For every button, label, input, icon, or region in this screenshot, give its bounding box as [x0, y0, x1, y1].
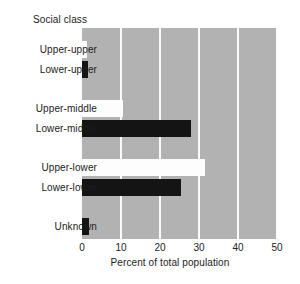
category-label-upper-lower: Upper-lower [41, 162, 97, 173]
category-label-upper-middle: Upper-middle [36, 103, 97, 114]
bar-lower-middle [82, 120, 191, 137]
category-label-lower-middle: Lower-middle [36, 123, 97, 134]
x-tick-label-20: 20 [154, 242, 165, 253]
x-tick-label-0: 0 [79, 242, 85, 253]
category-label-lower-upper: Lower-upper [40, 64, 97, 75]
x-tick-label-10: 10 [115, 242, 126, 253]
x-tick-label-50: 50 [271, 242, 282, 253]
plot-area [82, 28, 277, 239]
gridline-50 [276, 28, 277, 239]
gridline-30 [198, 28, 199, 239]
group-axis-title: Social class [33, 14, 87, 25]
x-axis-title: Percent of total population [0, 257, 300, 268]
bar-upper-lower [82, 159, 205, 176]
x-tick-label-30: 30 [193, 242, 204, 253]
x-tick-label-40: 40 [232, 242, 243, 253]
gridline-40 [237, 28, 238, 239]
chart-figure: Social class Percent of total population… [0, 0, 300, 284]
category-label-lower-lower: Lower-lower [41, 182, 97, 193]
category-label-upper-upper: Upper-upper [40, 44, 97, 55]
category-label-unknown: Unknown [55, 221, 97, 232]
caption-fragment [8, 275, 128, 283]
